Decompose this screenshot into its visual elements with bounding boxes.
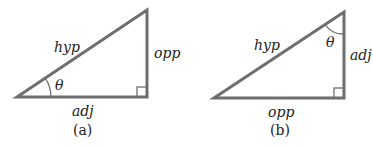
- label-theta-a: θ: [55, 77, 64, 93]
- caption-b: (b): [270, 122, 290, 138]
- label-hyp-a: hyp: [54, 39, 80, 55]
- angle-arc-b: [325, 25, 344, 35]
- right-triangle-diagrams: hyp opp adj θ (a) hyp adj opp θ (b): [0, 0, 373, 148]
- label-adj-b: adj: [350, 47, 372, 63]
- caption-a: (a): [73, 122, 92, 138]
- label-theta-b: θ: [326, 34, 335, 50]
- label-opp-b: opp: [268, 104, 294, 120]
- angle-arc-a: [46, 79, 52, 98]
- label-adj-a: adj: [72, 103, 94, 119]
- label-opp-a: opp: [154, 45, 180, 61]
- triangle-a: hyp opp adj θ (a): [17, 10, 180, 138]
- triangle-a-shape: [17, 10, 147, 97]
- label-hyp-b: hyp: [254, 37, 280, 53]
- triangle-b: hyp adj opp θ (b): [214, 12, 372, 138]
